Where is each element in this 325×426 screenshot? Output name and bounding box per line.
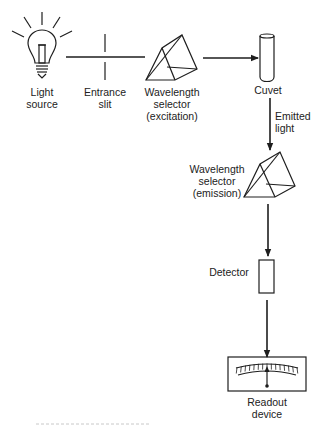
label-emission-selector: Wavelength selector (emission) [184,163,250,199]
label-emitted-light: Emitted light [275,110,321,134]
light-bulb-icon [12,12,72,78]
label-excitation-selector: Wavelength selector (excitation) [137,86,207,122]
label-detector: Detector [202,266,256,278]
fluorometer-diagram [0,0,325,426]
label-readout-device: Readout device [237,396,297,420]
prism-excitation-icon [146,35,197,80]
label-light-source: Light source [17,86,67,110]
prism-emission-icon [244,152,295,197]
readout-meter-icon [228,357,306,391]
meter-tick [245,366,246,372]
cuvet-icon [260,34,274,82]
meter-tick [288,366,289,372]
label-cuvet: Cuvet [246,84,290,96]
label-entrance-slit: Entrance slit [76,86,134,110]
detector-icon [259,260,274,293]
